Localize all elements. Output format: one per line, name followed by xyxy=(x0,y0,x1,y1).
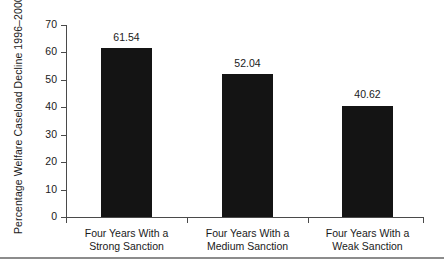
x-axis-label-medium-sanction: Four Years With a Medium Sanction xyxy=(186,227,309,252)
y-axis-line xyxy=(66,25,67,218)
plot-area: 0 10 20 30 40 50 60 70 61. xyxy=(66,25,424,217)
x-axis-label-weak-sanction-line1: Four Years With a xyxy=(306,227,429,240)
y-tick-20: 20 xyxy=(61,162,66,163)
y-tick-40: 40 xyxy=(61,107,66,108)
x-axis-label-strong-sanction: Four Years With a Strong Sanction xyxy=(65,227,188,252)
y-tick-label-50: 50 xyxy=(45,73,57,85)
y-tick-50: 50 xyxy=(61,80,66,81)
x-axis-label-medium-sanction-line2: Medium Sanction xyxy=(186,240,309,253)
y-tick-label-30: 30 xyxy=(45,128,57,140)
y-tick-label-10: 10 xyxy=(45,183,57,195)
y-tick-label-60: 60 xyxy=(45,45,57,57)
y-tick-30: 30 xyxy=(61,135,66,136)
x-tick-sep-1 xyxy=(187,217,188,223)
x-axis-line xyxy=(66,217,424,218)
x-axis-label-strong-sanction-line1: Four Years With a xyxy=(65,227,188,240)
bar-value-medium-sanction: 52.04 xyxy=(212,57,283,69)
bar-chart: Percentage Welfare Caseload Decline 1996… xyxy=(0,0,444,267)
x-axis-label-strong-sanction-line2: Strong Sanction xyxy=(65,240,188,253)
y-tick-label-0: 0 xyxy=(51,210,57,222)
bar-weak-sanction xyxy=(342,106,393,217)
y-tick-70: 70 xyxy=(61,25,66,26)
y-tick-60: 60 xyxy=(61,52,66,53)
y-tick-label-20: 20 xyxy=(45,155,57,167)
y-axis-title: Percentage Welfare Caseload Decline 1996… xyxy=(12,14,24,234)
x-tick-end xyxy=(423,217,424,223)
bar-medium-sanction xyxy=(222,74,273,217)
bottom-divider xyxy=(0,257,444,259)
y-tick-label-70: 70 xyxy=(45,18,57,30)
x-axis-label-weak-sanction-line2: Weak Sanction xyxy=(306,240,429,253)
x-axis-label-medium-sanction-line1: Four Years With a xyxy=(186,227,309,240)
x-tick-start xyxy=(66,217,67,223)
x-axis-label-weak-sanction: Four Years With a Weak Sanction xyxy=(306,227,429,252)
y-tick-label-40: 40 xyxy=(45,100,57,112)
x-tick-sep-2 xyxy=(308,217,309,223)
bar-strong-sanction xyxy=(101,48,152,217)
y-tick-10: 10 xyxy=(61,190,66,191)
bar-value-strong-sanction: 61.54 xyxy=(91,31,162,43)
bar-value-weak-sanction: 40.62 xyxy=(332,88,403,100)
